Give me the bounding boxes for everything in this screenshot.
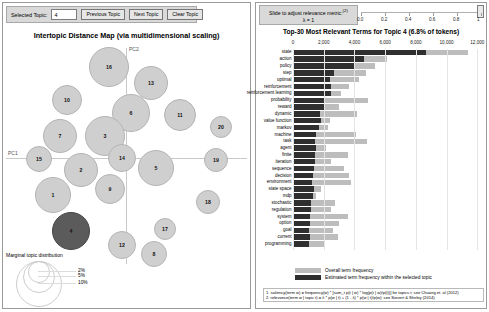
topic-bubble-14[interactable]: 14 [108,144,136,172]
term-row[interactable]: reinforcement [253,83,489,90]
slider-tick-0.0 [361,13,362,16]
relevance-slider-track[interactable] [361,12,481,13]
intertopic-map-title: Intertopic Distance Map (via multidimens… [0,31,253,40]
term-row[interactable]: agent [253,145,489,152]
term-row[interactable]: decision [253,172,489,179]
term-label[interactable]: optimal [277,77,292,82]
term-label[interactable]: state [282,49,292,54]
term-row[interactable]: action [253,56,489,63]
term-row[interactable]: reward [253,104,489,111]
topic-bubble-label: 4 [70,228,73,234]
term-label[interactable]: mdp [283,193,292,198]
term-row[interactable]: environment [253,179,489,186]
x-gridline-6000 [385,49,386,250]
term-label[interactable]: value function [264,118,292,123]
legend-label-overall: Overall term frequency [325,268,374,273]
term-row[interactable]: regulation [253,206,489,213]
topic-bubble-17[interactable]: 17 [154,218,176,240]
topic-bubble-7[interactable]: 7 [43,119,77,153]
topic-bubble-label: 8 [153,251,156,257]
term-row[interactable]: state space [253,186,489,193]
bar-topic-frequency [293,193,313,198]
term-row[interactable]: option [253,220,489,227]
topic-bubble-4[interactable]: 4 [52,212,90,250]
previous-topic-button[interactable]: Previous Topic [81,9,125,20]
legend-leader-10pct [38,283,76,284]
term-label[interactable]: goal [283,227,292,232]
term-row[interactable]: step [253,70,489,77]
term-row[interactable]: goal [253,227,489,234]
topic-bubble-5[interactable]: 5 [138,150,174,186]
x-tick-label-0: 0 [292,40,295,45]
topic-bubble-9[interactable]: 9 [95,174,125,204]
bar-topic-frequency [293,228,309,233]
term-row[interactable]: dynamic [253,111,489,118]
term-row[interactable]: probability [253,97,489,104]
term-label[interactable]: option [279,220,291,225]
term-label[interactable]: step [283,70,292,75]
bar-topic-frequency [293,84,331,89]
selected-topic-input[interactable] [51,9,77,20]
topic-bubble-11[interactable]: 11 [164,99,196,131]
bar-topic-frequency [293,186,314,191]
term-label[interactable]: task [283,138,291,143]
term-label[interactable]: finite [282,152,292,157]
term-row[interactable]: state [253,49,489,56]
term-row[interactable]: sequence [253,165,489,172]
topic-bubble-10[interactable]: 10 [52,85,82,115]
topic-bubble-20[interactable]: 20 [210,116,232,138]
topic-bubble-2[interactable]: 2 [64,153,98,187]
topic-bubble-18[interactable]: 18 [196,190,220,214]
term-row[interactable]: programming [253,241,489,248]
term-label[interactable]: markov [277,125,292,130]
term-row[interactable]: finite [253,152,489,159]
term-label[interactable]: current [277,234,291,239]
term-label[interactable]: environment [267,179,292,184]
bar-topic-frequency [293,125,319,130]
term-label[interactable]: stochastic [271,200,291,205]
term-row[interactable]: reinforcement learning [253,90,489,97]
bar-topic-frequency [293,200,311,205]
legend-row-overall: Overall term frequency [295,268,485,273]
topic-bubble-16[interactable]: 16 [89,47,129,87]
term-row[interactable]: policy [253,63,489,70]
topic-bubble-8[interactable]: 8 [141,241,167,267]
term-row[interactable]: mdp [253,193,489,200]
term-label[interactable]: reward [278,104,292,109]
term-label[interactable]: decision [275,173,292,178]
term-row[interactable]: machine [253,131,489,138]
term-row[interactable]: task [253,138,489,145]
term-label[interactable]: agent [280,145,291,150]
term-label[interactable]: dynamic [275,111,292,116]
term-label[interactable]: sequence [272,166,292,171]
term-label[interactable]: regulation [272,207,292,212]
term-label[interactable]: system [277,214,291,219]
topic-bubble-12[interactable]: 12 [108,231,136,259]
slider-tick-0.6 [433,13,434,16]
term-label[interactable]: reinforcement learning [247,90,292,95]
bar-topic-frequency [293,50,426,55]
term-row[interactable]: system [253,213,489,220]
term-row[interactable]: current [253,234,489,241]
term-label[interactable]: reinforcement [264,84,292,89]
term-label[interactable]: iteration [275,159,291,164]
term-label[interactable]: state space [268,186,291,191]
bar-topic-frequency [293,91,331,96]
topic-bubble-label: 14 [119,155,125,161]
clear-topic-button[interactable]: Clear Topic [167,9,203,20]
term-label[interactable]: policy [280,63,292,68]
term-row[interactable]: markov [253,124,489,131]
term-label[interactable]: action [279,56,291,61]
topic-bubble-1[interactable]: 1 [35,177,71,213]
term-label[interactable]: probability [271,97,292,102]
next-topic-button[interactable]: Next Topic [129,9,163,20]
topic-bubble-19[interactable]: 19 [204,148,228,172]
term-row[interactable]: optimal [253,76,489,83]
term-row[interactable]: iteration [253,159,489,166]
intertopic-scatter-area[interactable]: PC2 PC1 1613106117320151419259118417128 [4,42,249,266]
term-row[interactable]: stochastic [253,200,489,207]
topic-bubble-15[interactable]: 15 [26,146,52,172]
term-row[interactable]: value function [253,117,489,124]
term-label[interactable]: machine [274,132,291,137]
term-label[interactable]: programming [265,241,292,246]
